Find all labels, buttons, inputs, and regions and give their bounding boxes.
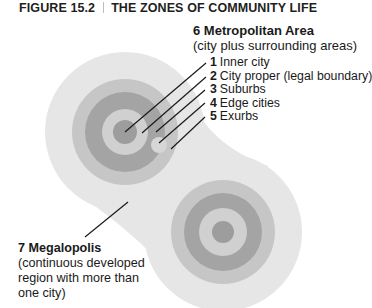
metropolitan-heading: 6 Metropolitan Area [193, 23, 357, 38]
zone-labels: 1Inner city 2City proper (legal boundary… [210, 56, 372, 124]
city-2-rings [171, 180, 275, 284]
edge-city-circle [151, 137, 167, 153]
zone-label-1: 1Inner city [210, 56, 372, 70]
megalopolis-line-3: one city) [18, 286, 168, 301]
zone-label-4: 4Edge cities [210, 97, 372, 111]
megalopolis-line-2: region with more than [18, 271, 168, 286]
megalopolis-line-1: (continuous developed [18, 256, 168, 271]
zone-label-3: 3Suburbs [210, 83, 372, 97]
metropolitan-description: (city plus surrounding areas) [193, 38, 357, 53]
zone-label-5: 5Exurbs [210, 110, 372, 124]
metropolitan-label: 6 Metropolitan Area (city plus surroundi… [193, 23, 357, 53]
zone-label-2: 2City proper (legal boundary) [210, 70, 372, 84]
megalopolis-heading: 7 Megalopolis [18, 241, 168, 256]
megalopolis-label: 7 Megalopolis (continuous developed regi… [18, 241, 168, 301]
